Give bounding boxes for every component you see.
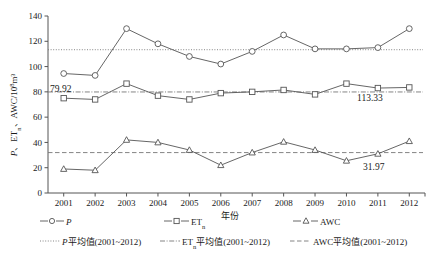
- data-point-AWC-2012: [406, 138, 412, 144]
- data-point-ETn-2007: [250, 89, 255, 94]
- series-AWC: [61, 137, 413, 173]
- series-line-AWC: [64, 140, 410, 170]
- data-point-ETn-2002: [92, 97, 97, 102]
- y-tick-label-60: 60: [33, 112, 43, 122]
- x-tick-label-2005: 2005: [180, 198, 199, 208]
- legend-item-etn[interactable]: ETn: [164, 217, 206, 230]
- data-point-P-2001: [61, 71, 67, 77]
- data-point-ETn-2005: [187, 97, 192, 102]
- data-point-P-2010: [344, 46, 350, 52]
- legend-label-awc: AWC: [320, 217, 340, 227]
- x-tick-label-2009: 2009: [306, 198, 325, 208]
- data-point-AWC-2008: [281, 139, 287, 145]
- chart-figure: P、ETn、AWC/108m³ 020406080100120140 20012…: [0, 0, 435, 258]
- data-point-ETn-2006: [218, 90, 223, 95]
- x-tick-label-2001: 2001: [55, 198, 73, 208]
- legend-marker-circle-p: [49, 218, 54, 223]
- data-point-P-2008: [281, 32, 287, 38]
- data-point-ETn-2010: [344, 81, 349, 86]
- data-point-ETn-2009: [312, 92, 317, 97]
- data-point-P-2005: [186, 54, 192, 60]
- legend-label-etn: ETn: [191, 217, 206, 230]
- y-axis-title-sep1: 、: [9, 142, 19, 151]
- legend-item-etn-mean[interactable]: ETn平均值(2001~2012): [160, 236, 270, 250]
- legend-item-awc-mean[interactable]: AWC平均值(2001~2012): [290, 236, 407, 247]
- data-point-ETn-2012: [407, 85, 412, 90]
- legend-row-1: P ETn AWC: [40, 217, 340, 230]
- data-point-P-2012: [406, 26, 412, 32]
- annotation-p-mean: 113.33: [357, 93, 383, 103]
- y-tick-label-40: 40: [33, 138, 43, 148]
- legend-marker-square-etn: [174, 218, 179, 223]
- y-tick-label-140: 140: [29, 11, 43, 21]
- data-point-ETn-2003: [124, 81, 129, 86]
- y-tick-label-120: 120: [29, 36, 43, 46]
- y-axis-title-sep2: 、: [9, 118, 19, 127]
- series-P: [61, 26, 412, 79]
- legend-item-awc[interactable]: AWC: [293, 217, 340, 227]
- data-point-P-2007: [249, 49, 255, 55]
- legend-marker-triangle-awc: [303, 218, 309, 223]
- data-point-ETn-2004: [155, 93, 160, 98]
- annotation-etn-mean: 79.92: [50, 84, 72, 94]
- data-point-ETn-2011: [375, 85, 380, 90]
- data-point-P-2003: [124, 26, 130, 32]
- chart-canvas: P、ETn、AWC/108m³ 020406080100120140 20012…: [0, 0, 435, 258]
- series-line-P: [64, 29, 410, 76]
- data-point-ETn-2001: [61, 95, 66, 100]
- y-axis-title-awc: AWC/10: [9, 86, 19, 118]
- data-point-P-2006: [218, 61, 224, 67]
- data-point-P-2011: [375, 45, 381, 51]
- data-point-ETn-2008: [281, 87, 286, 92]
- y-axis-title-unit: m³: [9, 73, 19, 83]
- x-tick-label-2003: 2003: [118, 198, 137, 208]
- y-tick-label-100: 100: [29, 62, 43, 72]
- x-tick-label-2007: 2007: [243, 198, 262, 208]
- x-tick-label-2008: 2008: [275, 198, 294, 208]
- legend-label-etn-mean: ETn平均值(2001~2012): [182, 236, 270, 250]
- annotation-awc-mean: 31.97: [363, 162, 385, 172]
- data-point-P-2004: [155, 41, 161, 47]
- x-tick-label-2006: 2006: [212, 198, 231, 208]
- data-point-P-2002: [92, 73, 98, 79]
- legend-label-p-mean: P平均值(2001~2012): [61, 236, 141, 247]
- legend-label-awc-mean: AWC平均值(2001~2012): [313, 236, 407, 247]
- y-tick-label-80: 80: [33, 87, 43, 97]
- y-tick-label-0: 0: [38, 188, 43, 198]
- x-tick-label-2002: 2002: [86, 198, 104, 208]
- x-tick-label-2010: 2010: [337, 198, 356, 208]
- legend-label-p: P: [65, 217, 72, 227]
- x-tick-label-2011: 2011: [369, 198, 387, 208]
- y-axis-title: P、ETn、AWC/108m³: [8, 73, 22, 157]
- x-tick-label-2012: 2012: [400, 198, 418, 208]
- y-tick-label-20: 20: [33, 163, 43, 173]
- x-axis-title: 年份: [221, 210, 239, 221]
- legend-item-p[interactable]: P: [40, 217, 72, 227]
- data-point-AWC-2001: [61, 166, 67, 172]
- x-axis-ticks: 2001200220032004200520062007200820092010…: [55, 193, 425, 208]
- x-tick-label-2004: 2004: [149, 198, 168, 208]
- y-axis-title-et: ET: [9, 130, 19, 141]
- legend-item-p-mean[interactable]: P平均值(2001~2012): [40, 236, 141, 247]
- y-axis-ticks: 020406080100120140: [29, 11, 49, 198]
- legend-row-2: P平均值(2001~2012) ETn平均值(2001~2012) AWC平均值…: [40, 236, 407, 250]
- data-point-AWC-2003: [123, 137, 129, 143]
- data-point-P-2009: [312, 46, 318, 52]
